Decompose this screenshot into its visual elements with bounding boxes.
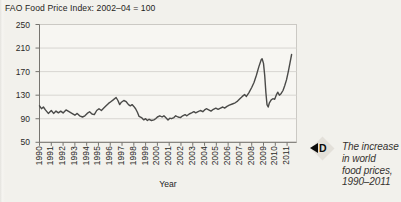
y-axis-label: 50 [0,137,30,147]
x-axis-label: 2001 [164,146,173,165]
x-axis-label: 2011 [282,146,291,165]
x-axis-label: 1998 [129,146,138,165]
x-axis-label: 1990 [35,146,44,165]
plot-frame [40,25,297,143]
x-axis-label: 2003 [188,146,197,165]
x-axis-label: 2006 [223,146,232,165]
x-axis-label: 2005 [211,146,220,165]
x-axis-label: 1992 [58,146,67,165]
figure-caption: The increase in world food prices, 1990–… [342,141,400,188]
y-axis-label: 90 [0,114,30,124]
y-axis-label: 130 [0,90,30,100]
x-axis-label: 1997 [117,146,126,165]
caption-line: The increase [342,141,400,153]
y-axis-label: 170 [0,67,30,77]
y-axis-label: 210 [0,43,30,53]
x-axis-label: 2004 [200,146,209,165]
x-axis-title: Year [149,179,187,189]
x-axis-label: 2002 [176,146,185,165]
x-axis-label: 1993 [70,146,79,165]
x-axis-label: 2007 [235,146,244,165]
y-axis-label: 250 [0,20,30,30]
x-axis-label: 2000 [152,146,161,165]
x-axis-label: 2008 [247,146,256,165]
left-arrow-icon [310,143,318,153]
figure-marker-letter: D [319,142,327,154]
caption-line: 1990–2011 [342,176,400,188]
x-axis-label: 1995 [93,146,102,165]
x-axis-label: 2009 [259,146,268,165]
chart-figure: FAO Food Price Index: 2002–04 = 100 5090… [0,0,401,202]
x-axis-label: 1991 [46,146,55,165]
x-axis-label: 1996 [105,146,114,165]
x-axis-label: 1994 [82,146,91,165]
x-axis-label: 1999 [141,146,150,165]
x-axis-label: 2010 [270,146,279,165]
chart-plot-area [0,0,401,202]
caption-line: food prices, [342,165,400,177]
caption-line: in world [342,153,400,165]
